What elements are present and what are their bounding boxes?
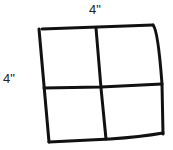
outer-right-edge bbox=[153, 25, 163, 134]
horizontal-divider bbox=[44, 84, 162, 88]
outer-left-edge bbox=[39, 29, 49, 142]
vertical-divider bbox=[96, 28, 106, 139]
grid-square-drawing bbox=[0, 0, 173, 150]
